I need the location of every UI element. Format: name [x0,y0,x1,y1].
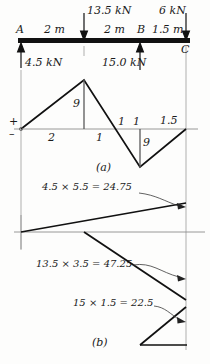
diagram-canvas: A B C 2 m 2 m 1.5 m 13.5 kN 6 kN 4.5 kN … [0,0,210,364]
moment-annotation-support-term: 15 × 1.5 = 22.5 [73,298,153,308]
shear-segment-label-2: 1 [96,132,103,143]
support-label-C: C [181,44,189,55]
shear-minus-sign: – [9,128,15,139]
moment-line-support-term [140,307,186,345]
reaction-label-15kN: 15.0 kN [102,57,146,68]
moment-annotation-load-term: 13.5 × 3.5 = 47.25 [36,259,132,269]
span-label-AB2: 2 m [104,24,125,35]
shear-plus-sign: + [9,116,18,127]
shear-segment-label-3: 1 [118,116,125,127]
load-label-13-5kN: 13.5 kN [87,5,131,16]
load-arrow-13-5kN [81,13,88,40]
reaction-label-4-5kN: 4.5 kN [25,57,62,68]
shear-segment-label-5: 1.5 [160,115,178,126]
shear-segment-label-4: 1 [133,116,140,127]
moment-annotation-reaction-term: 4.5 × 5.5 = 24.75 [42,182,132,192]
support-label-B: B [137,24,145,35]
moment-line-reaction-term [21,203,186,232]
reaction-arrow-4-5kN [18,43,25,68]
callout-arrowheads [177,203,186,324]
support-label-A: A [16,24,24,35]
shear-value-positive-9: 9 [73,98,80,109]
span-label-BC: 1.5 m [152,24,183,35]
moment-diagram-caption: (b) [92,337,108,348]
span-label-AB1: 2 m [44,24,65,35]
shear-segment-label-1: 2 [48,132,55,143]
load-label-6kN: 6 kN [159,5,186,16]
beam-bar [18,38,190,43]
load-arrow-6kN [183,13,190,40]
shear-diagram-caption: (a) [96,162,111,173]
shear-value-negative-9: 9 [143,137,150,148]
